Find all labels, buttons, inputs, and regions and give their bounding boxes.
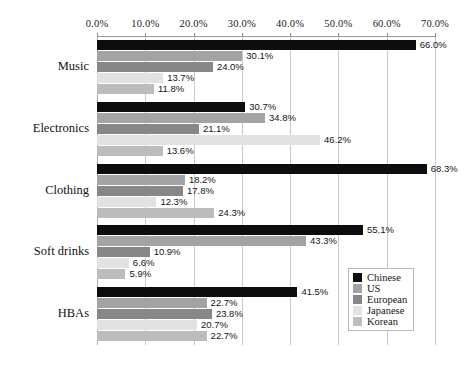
bar[interactable]	[97, 258, 129, 268]
bar-row: 24.3%	[97, 208, 435, 218]
bar-value-label: 6.6%	[133, 257, 155, 268]
legend-label: Chinese	[367, 272, 401, 283]
legend-label: Korean	[367, 316, 398, 327]
bar-row: 10.9%	[97, 247, 435, 257]
bar[interactable]	[97, 51, 242, 61]
legend-label: US	[367, 283, 380, 294]
bar-value-label: 43.3%	[310, 235, 337, 246]
bar-value-label: 34.8%	[269, 112, 296, 123]
bar-row: 34.8%	[97, 113, 435, 123]
gridline	[435, 36, 436, 345]
bar-value-label: 30.7%	[249, 101, 276, 112]
bar-group: 68.3%18.2%17.8%12.3%24.3%	[97, 164, 435, 219]
bar[interactable]	[97, 186, 183, 196]
category-axis: MusicElectronicsClothingSoft drinksHBAs	[0, 36, 97, 345]
legend-label: Japanese	[367, 305, 404, 316]
x-axis-tick-label: 50.0%	[324, 18, 352, 29]
bar[interactable]	[97, 298, 207, 308]
legend-item[interactable]: Japanese	[353, 305, 407, 316]
bar[interactable]	[97, 62, 213, 72]
bar-value-label: 66.0%	[420, 39, 447, 50]
bar-row: 17.8%	[97, 186, 435, 196]
bar-value-label: 10.9%	[154, 246, 181, 257]
bar-row: 68.3%	[97, 164, 435, 174]
legend-swatch-icon	[353, 317, 362, 326]
bar-chart: 0.0%10.0%20.0%30.0%40.0%50.0%60.0%70.0% …	[0, 0, 471, 368]
bar[interactable]	[97, 309, 212, 319]
category-label: Soft drinks	[34, 244, 89, 259]
bar-value-label: 11.8%	[158, 83, 184, 94]
bar-row: 66.0%	[97, 40, 435, 50]
bar[interactable]	[97, 197, 156, 207]
bar[interactable]	[97, 269, 125, 279]
bar-row: 21.1%	[97, 124, 435, 134]
legend-swatch-icon	[353, 284, 362, 293]
bar-row: 11.8%	[97, 84, 435, 94]
bar-value-label: 22.7%	[211, 330, 238, 341]
legend: ChineseUSEuropeanJapaneseKorean	[348, 268, 414, 331]
bar-row: 30.1%	[97, 51, 435, 61]
bar[interactable]	[97, 84, 154, 94]
bar-value-label: 5.9%	[129, 268, 151, 279]
bar-value-label: 30.1%	[246, 50, 273, 61]
x-axis-tick-label: 0.0%	[86, 18, 109, 29]
bar[interactable]	[97, 331, 207, 341]
bar[interactable]	[97, 40, 416, 50]
bar[interactable]	[97, 146, 163, 156]
bar-row: 46.2%	[97, 135, 435, 145]
bar-value-label: 24.0%	[217, 61, 244, 72]
bar-value-label: 12.3%	[160, 196, 187, 207]
legend-item[interactable]: European	[353, 294, 407, 305]
bar-value-label: 21.1%	[203, 123, 230, 134]
bar[interactable]	[97, 73, 163, 83]
bar-row: 13.7%	[97, 73, 435, 83]
bar-value-label: 68.3%	[431, 163, 458, 174]
bar-value-label: 22.7%	[211, 297, 238, 308]
legend-label: European	[367, 294, 407, 305]
legend-item[interactable]: Korean	[353, 316, 407, 327]
bar[interactable]	[97, 175, 185, 185]
bar[interactable]	[97, 164, 427, 174]
legend-item[interactable]: Chinese	[353, 272, 407, 283]
x-axis-tick-labels: 0.0%10.0%20.0%30.0%40.0%50.0%60.0%70.0%	[0, 18, 471, 32]
legend-swatch-icon	[353, 295, 362, 304]
x-axis-tickmark	[242, 33, 243, 37]
bar[interactable]	[97, 320, 197, 330]
bar-value-label: 17.8%	[187, 185, 214, 196]
legend-item[interactable]: US	[353, 283, 407, 294]
bar-value-label: 20.7%	[201, 319, 228, 330]
bar-row: 12.3%	[97, 197, 435, 207]
bar[interactable]	[97, 102, 245, 112]
x-axis-tick-label: 40.0%	[276, 18, 304, 29]
bar[interactable]	[97, 225, 363, 235]
bar[interactable]	[97, 236, 306, 246]
bar-value-label: 55.1%	[367, 224, 394, 235]
category-label: HBAs	[58, 306, 89, 321]
legend-swatch-icon	[353, 273, 362, 282]
bar-value-label: 46.2%	[324, 134, 351, 145]
x-axis-tick-label: 60.0%	[373, 18, 401, 29]
x-axis-tickmark	[338, 33, 339, 37]
x-axis-tick-label: 30.0%	[228, 18, 256, 29]
bar[interactable]	[97, 135, 320, 145]
bar[interactable]	[97, 247, 150, 257]
x-axis-tick-label: 70.0%	[421, 18, 449, 29]
bar-row: 13.6%	[97, 146, 435, 156]
category-label: Clothing	[45, 183, 89, 198]
bar-value-label: 13.6%	[167, 145, 194, 156]
x-axis-tick-label: 20.0%	[180, 18, 208, 29]
x-axis-tickmark	[97, 33, 98, 37]
bar-value-label: 41.5%	[301, 286, 328, 297]
bar-row: 6.6%	[97, 258, 435, 268]
bar-row: 22.7%	[97, 331, 435, 341]
bar-row: 30.7%	[97, 102, 435, 112]
bar-row: 24.0%	[97, 62, 435, 72]
bar[interactable]	[97, 113, 265, 123]
bar[interactable]	[97, 287, 297, 297]
x-axis-tickmark	[145, 33, 146, 37]
bar[interactable]	[97, 124, 199, 134]
bar-group: 66.0%30.1%24.0%13.7%11.8%	[97, 40, 435, 95]
bar-value-label: 23.8%	[216, 308, 243, 319]
bar-value-label: 13.7%	[167, 72, 194, 83]
bar[interactable]	[97, 208, 214, 218]
